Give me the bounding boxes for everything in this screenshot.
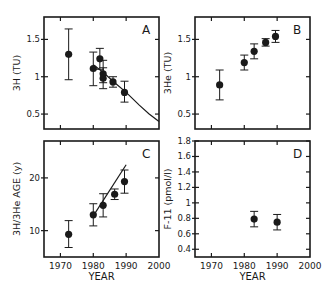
data-point [241,59,248,66]
data-point [65,231,72,238]
x-tick-label: 1970 [200,261,223,271]
data-point [90,211,97,218]
data-point [100,75,107,82]
y-axis-label: F-11 (pmol/l) [162,169,173,230]
x-tick-label: 2000 [148,261,171,271]
data-point [109,78,116,85]
y-tick-label: 0.6 [177,229,191,239]
x-tick-label: 1980 [82,261,105,271]
figure: 0.511.5A3H (TU) 0.511.5B3He (TU) 1970198… [0,0,336,291]
panel-letter: D [293,147,302,161]
x-tick-label: 1980 [233,261,256,271]
y-axis-label: 3H/3He AGE (y) [11,162,22,236]
panel-b: 0.511.5B3He (TU) [162,17,310,129]
x-tick-label: 1970 [49,261,72,271]
fit-line [93,165,126,216]
y-tick-label: 1.2 [177,182,191,192]
data-point [111,191,118,198]
panel-d: 19701980199020000.40.60.811.21.41.61.8DF… [162,136,322,282]
panel-letter: C [142,147,150,161]
y-tick-label: 1.4 [177,167,191,177]
data-point [272,33,279,40]
data-point [216,81,223,88]
y-tick-label: 1.5 [177,34,191,44]
y-tick-label: 0.5 [177,109,191,119]
x-tick-label: 1990 [266,261,289,271]
data-point [100,202,107,209]
data-point [121,89,128,96]
y-tick-label: 1 [186,72,191,82]
y-tick-label: 10 [29,226,40,236]
panel-letter: B [293,23,301,37]
x-axis-label: YEAR [87,271,114,282]
y-axis-label: 3He (TU) [162,52,173,94]
y-tick-label: 1 [186,198,191,208]
panel-letter: A [142,23,151,37]
x-tick-label: 1990 [115,261,138,271]
y-tick-label: 1 [35,72,40,82]
data-point [65,51,72,58]
panel-c: 19701980199020001020C3H/3He AGE (y)YEAR [11,141,171,282]
data-point [251,48,258,55]
y-axis-label: 3H (TU) [11,55,22,91]
y-tick-label: 1.6 [177,151,191,161]
data-point [90,65,97,72]
data-point [96,55,103,62]
data-point [121,178,128,185]
y-tick-label: 0.5 [26,109,40,119]
y-tick-label: 0.8 [177,213,191,223]
x-tick-label: 2000 [299,261,322,271]
data-point [251,216,258,223]
panel-a: 0.511.5A3H (TU) [11,17,159,129]
y-tick-label: 0.4 [177,244,191,254]
y-tick-label: 1.8 [177,136,191,146]
x-axis-label: YEAR [238,271,265,282]
y-tick-label: 20 [29,173,40,183]
y-tick-label: 1.5 [26,34,40,44]
data-point [274,219,281,226]
data-point [262,39,269,46]
